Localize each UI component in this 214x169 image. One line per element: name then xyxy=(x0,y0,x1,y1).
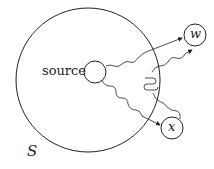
w-label: w xyxy=(190,26,201,41)
path-loop xyxy=(144,78,180,119)
set-s-label: S xyxy=(27,142,37,160)
x-label: x xyxy=(168,119,175,134)
source-label: source xyxy=(42,63,86,78)
source-node xyxy=(84,61,106,83)
path-source-to-w xyxy=(106,38,182,67)
path-source-to-x xyxy=(102,80,160,125)
diagram: source S w x xyxy=(0,0,214,169)
path-boundary-to-w xyxy=(152,50,192,72)
